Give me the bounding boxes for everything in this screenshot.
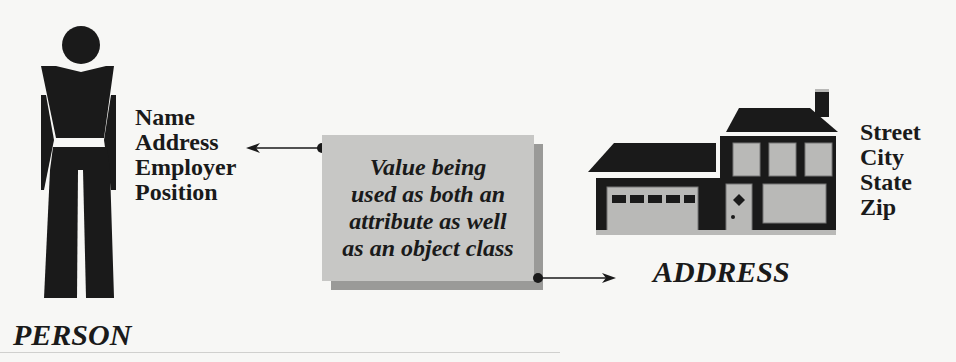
person-caption: PERSON — [13, 318, 131, 352]
arrow-to-address-class — [532, 268, 617, 288]
attribute-name: Name — [135, 105, 236, 130]
attribute-employer: Employer — [135, 155, 236, 180]
note-line-2: used as both an — [351, 181, 505, 208]
note-text: Value being used as both an attribute as… — [322, 135, 534, 281]
attribute-city: City — [860, 145, 921, 170]
attribute-address: Address — [135, 130, 236, 155]
address-attribute-list: Street City State Zip — [860, 120, 921, 220]
note-line-1: Value being — [370, 154, 487, 181]
attribute-position: Position — [135, 180, 236, 205]
house-icon — [586, 86, 838, 238]
note-line-4: as an object class — [342, 235, 513, 262]
person-icon — [38, 20, 120, 302]
attribute-street: Street — [860, 120, 921, 145]
note-line-3: attribute as well — [349, 208, 506, 235]
divider-line — [0, 352, 560, 353]
arrow-to-address-attribute — [245, 138, 330, 158]
person-attribute-list: Name Address Employer Position — [135, 105, 236, 205]
attribute-zip: Zip — [860, 195, 921, 220]
attribute-state: State — [860, 170, 921, 195]
address-caption: ADDRESS — [653, 255, 790, 289]
